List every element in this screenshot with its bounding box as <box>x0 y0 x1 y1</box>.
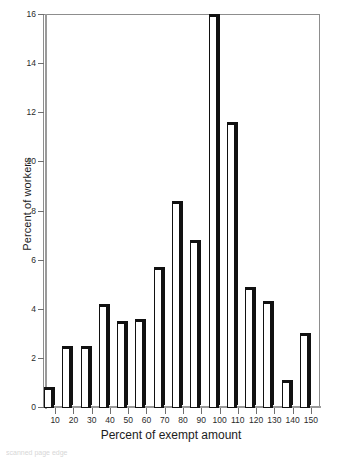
x-tick-mark <box>73 408 74 414</box>
x-tick-mark <box>274 408 275 414</box>
y-tick-label: 6 <box>10 255 36 265</box>
y-axis-title: Percent of workers <box>21 114 33 294</box>
y-tick-mark <box>38 309 44 310</box>
y-tick-mark <box>38 161 44 162</box>
histogram-figure: Percent of workers 0246810121416 1020304… <box>0 0 342 458</box>
y-tick-label: 0 <box>10 402 36 412</box>
histogram-bar <box>245 287 255 408</box>
histogram-bar <box>282 380 292 408</box>
histogram-bar <box>44 387 54 408</box>
y-tick-label: 14 <box>10 58 36 68</box>
histogram-bar <box>99 304 109 408</box>
x-tick-mark <box>183 408 184 414</box>
histogram-bar <box>227 122 237 408</box>
y-tick-mark <box>38 407 44 408</box>
y-tick-label: 2 <box>10 353 36 363</box>
y-tick-mark <box>38 63 44 64</box>
x-tick-mark <box>220 408 221 414</box>
x-tick-mark <box>55 408 56 414</box>
x-tick-label: 150 <box>299 415 323 425</box>
x-tick-mark <box>256 408 257 414</box>
x-tick-mark <box>293 408 294 414</box>
y-tick-mark <box>38 260 44 261</box>
y-tick-label: 10 <box>10 156 36 166</box>
histogram-bar <box>172 201 182 408</box>
histogram-bar <box>154 267 164 408</box>
histogram-bar <box>135 319 145 408</box>
histogram-bar <box>81 346 91 408</box>
y-tick-label: 16 <box>10 9 36 19</box>
histogram-bar <box>117 321 127 408</box>
y-tick-mark <box>38 211 44 212</box>
histogram-bar <box>209 14 219 408</box>
x-tick-mark <box>238 408 239 414</box>
y-axis-spine <box>45 14 47 409</box>
x-tick-mark <box>146 408 147 414</box>
y-tick-label: 12 <box>10 107 36 117</box>
histogram-bar <box>263 301 273 408</box>
y-tick-mark <box>38 358 44 359</box>
y-tick-label: 4 <box>10 304 36 314</box>
x-tick-mark <box>201 408 202 414</box>
histogram-bar <box>300 333 310 408</box>
x-tick-mark <box>110 408 111 414</box>
y-tick-mark <box>38 112 44 113</box>
y-tick-mark <box>38 14 44 15</box>
scan-artifact: scanned page edge <box>6 449 246 457</box>
x-axis-title: Percent of exempt amount <box>0 428 342 442</box>
histogram-bar <box>190 240 200 408</box>
x-tick-mark <box>92 408 93 414</box>
x-tick-mark <box>128 408 129 414</box>
x-tick-mark <box>311 408 312 414</box>
y-tick-label: 8 <box>10 206 36 216</box>
histogram-bar <box>62 346 72 408</box>
x-tick-mark <box>165 408 166 414</box>
